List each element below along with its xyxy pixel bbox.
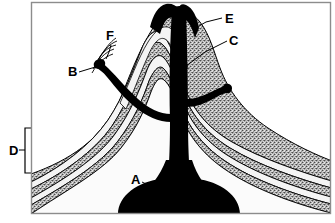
volcano-cross-section-svg: A B C D E F <box>0 0 335 223</box>
label-a: A <box>131 172 141 187</box>
label-e: E <box>225 11 234 26</box>
volcano-edifice <box>31 4 335 222</box>
label-f: F <box>106 28 114 43</box>
label-b: B <box>68 64 77 79</box>
label-c: C <box>229 33 239 48</box>
label-d: D <box>9 143 18 158</box>
d-bracket <box>19 128 32 173</box>
volcano-diagram: A B C D E F <box>0 0 335 223</box>
